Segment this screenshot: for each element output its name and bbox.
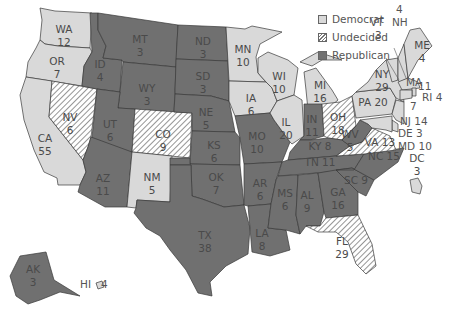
state-label-de: DE 3 [398,127,423,139]
state-label-ny: NY29 [375,68,390,93]
legend-item-undecided: Undecided [318,28,390,46]
state-label-pa: PA 20 [358,96,388,108]
democrat-swatch [318,15,327,24]
state-label-fl: FL29 [335,235,348,260]
state-label-mn: MN10 [235,43,252,68]
legend: Democrat Undecided Republican [318,10,390,64]
state-label-dc: DC3 [409,152,424,177]
state-label-tx: TX38 [197,229,212,254]
legend-label: Democrat [332,13,384,25]
legend-label: Republican [332,49,390,61]
state-label-nj: NJ 14 [400,115,428,127]
state-ak[interactable] [10,252,80,304]
state-ri[interactable] [412,88,416,96]
state-dc[interactable] [410,178,422,194]
state-label-nh: NH [392,16,408,28]
state-label-ca: CA55 [38,132,53,157]
state-label-nc: NC 15 [368,150,400,162]
state-label-ct-votes: 7 [410,100,417,112]
state-label-ky: KY 8 [309,140,332,152]
state-label-hi: HI [80,278,91,290]
state-label-sc: SC 9 [344,174,368,186]
state-label-mo: MO10 [248,130,265,155]
state-label-az: AZ11 [96,172,110,197]
republican-swatch [318,51,327,60]
state-label-ga: GA16 [330,186,346,211]
state-label-ri: RI 4 [422,91,443,103]
state-label-tn: TN 11 [304,156,336,168]
state-label-va: VA 13 [365,136,395,148]
state-label-wi: WI10 [272,70,285,95]
state-label-ma: MA [406,76,423,88]
state-label-md: MD 10 [398,140,432,152]
undecided-swatch [318,33,327,42]
state-ct[interactable] [400,90,412,100]
legend-item-republican: Republican [318,46,390,64]
state-label-in: IN11 [305,113,318,138]
legend-item-democrat: Democrat [318,10,390,28]
state-label-nh-votes: 4 [396,3,403,15]
state-label-hi-votes: 4 [101,278,108,290]
legend-label: Undecided [332,31,388,43]
state-label-mi: MI16 [313,79,327,104]
state-label-wa: WA12 [56,23,74,48]
